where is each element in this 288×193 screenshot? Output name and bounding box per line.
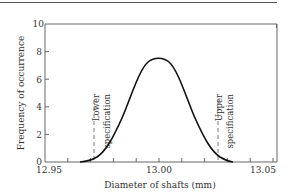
y-axis-label: Frequency of occurrence [16, 36, 26, 151]
upper-spec-label: Upper [214, 93, 224, 121]
x-tick-label: 13.05 [250, 165, 276, 175]
y-tick-label: 8 [36, 47, 42, 57]
y-tick-label: 10 [33, 19, 45, 29]
x-axis [68, 158, 273, 162]
upper-spec-label: specification [225, 93, 235, 148]
x-tick-label: 12.95 [36, 165, 62, 175]
y-axis [45, 52, 49, 135]
x-tick-label: 13.00 [146, 165, 172, 175]
y-tick-label: 6 [36, 75, 42, 85]
lower-spec-label: Lower [91, 93, 101, 121]
y-tick-label: 2 [36, 130, 42, 140]
y-tick-label: 4 [36, 102, 42, 112]
x-axis-label: Diameter of shafts (mm) [104, 180, 215, 190]
plot-frame [45, 24, 277, 162]
frequency-distribution-chart: 0 2 4 6 8 10 12.95 13.00 13.05 Diameter … [0, 0, 288, 193]
